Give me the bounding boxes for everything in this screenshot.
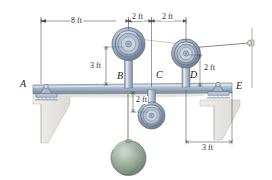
lower-pulley-c	[138, 102, 165, 129]
dimension-span-bc: 2 ft	[131, 13, 144, 21]
dimension-height-d: 2 ft	[203, 64, 216, 72]
wall-cable-anchor	[247, 28, 254, 88]
label-point-d: D	[190, 70, 197, 80]
mechanics-diagram	[0, 0, 272, 180]
label-point-c: C	[156, 70, 163, 80]
suspended-sphere-weight	[111, 139, 146, 175]
dimension-span-cd: 2 ft	[161, 13, 174, 21]
dimension-span-ab: 8 ft	[70, 17, 83, 25]
label-point-a: A	[20, 79, 26, 89]
wall-left	[33, 96, 70, 143]
figure-canvas: A B C D E 8 ft 2 ft 2 ft 3 ft 2 ft 2 ft …	[0, 0, 272, 180]
dimension-depth-c: 2 ft	[135, 96, 148, 104]
dimension-span-de: 3 ft	[201, 144, 214, 152]
wall-right	[200, 100, 240, 140]
label-point-e: E	[236, 81, 242, 91]
upper-pulley-b	[112, 28, 145, 61]
upper-pulley-d	[172, 39, 201, 68]
dimension-height-b: 3 ft	[89, 62, 102, 70]
label-point-b: B	[117, 71, 123, 81]
